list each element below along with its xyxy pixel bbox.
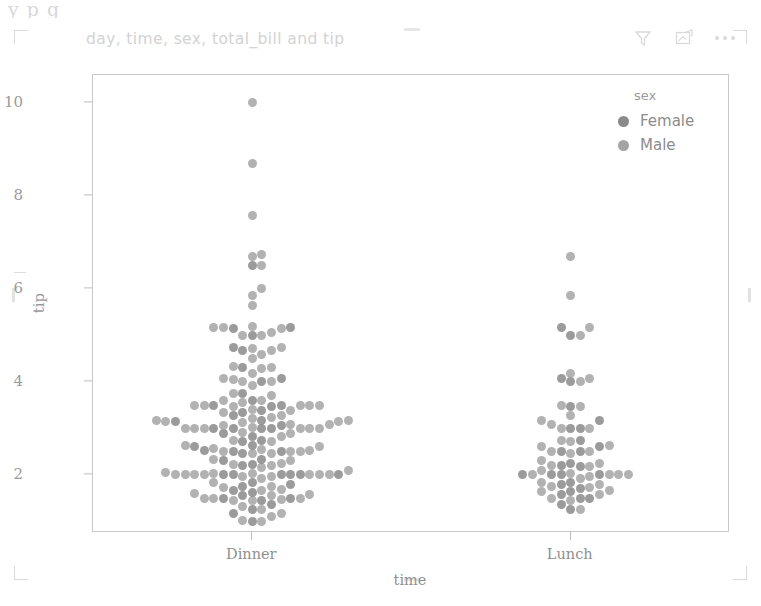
swarm-point[interactable] (267, 500, 276, 509)
swarm-point[interactable] (557, 480, 566, 489)
swarm-point[interactable] (566, 331, 575, 340)
swarm-point[interactable] (257, 436, 266, 445)
swarm-point[interactable] (238, 482, 247, 491)
swarm-point[interactable] (296, 470, 305, 479)
legend-item-female[interactable]: Female (618, 109, 694, 133)
swarm-point[interactable] (277, 421, 286, 430)
swarm-point[interactable] (248, 369, 257, 378)
swarm-point[interactable] (219, 470, 228, 479)
swarm-point[interactable] (209, 494, 218, 503)
swarm-point[interactable] (277, 470, 286, 479)
swarm-point[interactable] (190, 442, 199, 451)
swarm-point[interactable] (161, 468, 170, 477)
swarm-point[interactable] (257, 416, 266, 425)
swarm-point[interactable] (547, 494, 556, 503)
swarm-point[interactable] (576, 436, 585, 445)
swarm-point[interactable] (238, 472, 247, 481)
swarm-point[interactable] (547, 420, 556, 429)
swarm-point[interactable] (585, 494, 594, 503)
swarm-point[interactable] (248, 98, 257, 107)
swarm-point[interactable] (257, 445, 266, 454)
swarm-point[interactable] (229, 447, 238, 456)
swarm-point[interactable] (238, 398, 247, 407)
swarm-point[interactable] (557, 436, 566, 445)
swarm-point[interactable] (248, 449, 257, 458)
swarm-point[interactable] (277, 447, 286, 456)
filter-icon[interactable] (631, 26, 655, 50)
swarm-point[interactable] (181, 441, 190, 450)
swarm-point[interactable] (248, 252, 257, 261)
swarm-point[interactable] (576, 484, 585, 493)
swarm-point[interactable] (219, 494, 228, 503)
swarm-point[interactable] (248, 396, 257, 405)
swarm-point[interactable] (566, 369, 575, 378)
swarm-point[interactable] (576, 424, 585, 433)
swarm-point[interactable] (595, 490, 604, 499)
legend-item-male[interactable]: Male (618, 133, 694, 157)
swarm-point[interactable] (267, 449, 276, 458)
swarm-point[interactable] (277, 459, 286, 468)
swarm-point[interactable] (334, 417, 343, 426)
swarm-point[interactable] (229, 509, 238, 518)
swarm-point[interactable] (248, 414, 257, 423)
swarm-point[interactable] (209, 469, 218, 478)
swarm-point[interactable] (305, 470, 314, 479)
swarm-point[interactable] (566, 377, 575, 386)
swarm-point[interactable] (248, 261, 257, 270)
swarm-point[interactable] (209, 455, 218, 464)
swarm-point[interactable] (344, 416, 353, 425)
swarm-point[interactable] (537, 487, 546, 496)
swarm-point[interactable] (528, 470, 537, 479)
swarm-point[interactable] (305, 490, 314, 499)
swarm-point[interactable] (238, 461, 247, 470)
swarm-point[interactable] (576, 474, 585, 483)
swarm-point[interactable] (566, 505, 575, 514)
swarm-point[interactable] (576, 462, 585, 471)
swarm-point[interactable] (190, 401, 199, 410)
swarm-point[interactable] (257, 517, 266, 526)
swarm-point[interactable] (267, 472, 276, 481)
swarm-point[interactable] (605, 486, 614, 495)
swarm-point[interactable] (334, 470, 343, 479)
swarm-point[interactable] (229, 496, 238, 505)
swarm-point[interactable] (537, 466, 546, 475)
swarm-point[interactable] (286, 447, 295, 456)
swarm-point[interactable] (557, 323, 566, 332)
swarm-point[interactable] (267, 346, 276, 355)
swarm-point[interactable] (248, 354, 257, 363)
swarm-point[interactable] (229, 424, 238, 433)
swarm-point[interactable] (315, 470, 324, 479)
swarm-point[interactable] (238, 408, 247, 417)
swarm-point[interactable] (229, 343, 238, 352)
swarm-point[interactable] (557, 500, 566, 509)
swarm-point[interactable] (557, 470, 566, 479)
swarm-point[interactable] (595, 459, 604, 468)
swarm-point[interactable] (248, 423, 257, 432)
swarm-point[interactable] (566, 487, 575, 496)
swarm-point[interactable] (257, 406, 266, 415)
swarm-point[interactable] (238, 449, 247, 458)
swarm-point[interactable] (209, 444, 218, 453)
swarm-point[interactable] (238, 346, 247, 355)
swarm-point[interactable] (286, 323, 295, 332)
swarm-point[interactable] (200, 470, 209, 479)
swarm-point[interactable] (576, 331, 585, 340)
resize-handle-right[interactable] (748, 288, 751, 302)
swarm-point[interactable] (566, 424, 575, 433)
swarm-point[interactable] (238, 363, 247, 372)
swarm-point[interactable] (566, 459, 575, 468)
swarm-point[interactable] (248, 291, 257, 300)
swarm-point[interactable] (200, 424, 209, 433)
swarm-point[interactable] (585, 462, 594, 471)
swarm-point[interactable] (286, 456, 295, 465)
swarm-point[interactable] (267, 437, 276, 446)
swarm-point[interactable] (248, 517, 257, 526)
swarm-point[interactable] (286, 470, 295, 479)
swarm-point[interactable] (190, 470, 199, 479)
swarm-point[interactable] (257, 250, 266, 259)
swarm-point[interactable] (238, 331, 247, 340)
swarm-point[interactable] (566, 291, 575, 300)
swarm-point[interactable] (171, 417, 180, 426)
swarm-point[interactable] (547, 470, 556, 479)
swarm-point[interactable] (257, 396, 266, 405)
